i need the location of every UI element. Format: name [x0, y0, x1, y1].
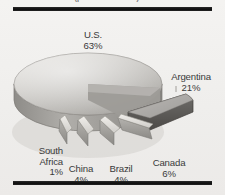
slice-label-china: China 4% [61, 154, 101, 195]
slice-label-brazil-name: Brazil [109, 163, 132, 174]
slice-label-argentina: Argentina 21% [158, 62, 224, 104]
slice-label-china-name: China [69, 163, 93, 174]
slice-label-brazil: Brazil 4% [101, 154, 141, 195]
bottom-rule [13, 181, 212, 185]
slice-label-argentina-name: Argentina [171, 71, 211, 82]
slice-label-argentina-percent: 21% [158, 83, 224, 93]
slice-label-south-africa-name: South Africa [39, 145, 63, 166]
slice-label-us-name: U.S. [84, 29, 102, 40]
slice-label-canada-name: Canada [153, 157, 186, 168]
pie-chart-figure: WHEAT EXPORTS (pct. of world total) [0, 0, 225, 195]
slice-label-south-africa-percent: 1% [9, 167, 63, 177]
slice-label-canada-percent: 6% [142, 169, 196, 179]
slice-label-us: U.S. 63% [68, 20, 118, 62]
slice-label-us-percent: 63% [68, 41, 118, 51]
